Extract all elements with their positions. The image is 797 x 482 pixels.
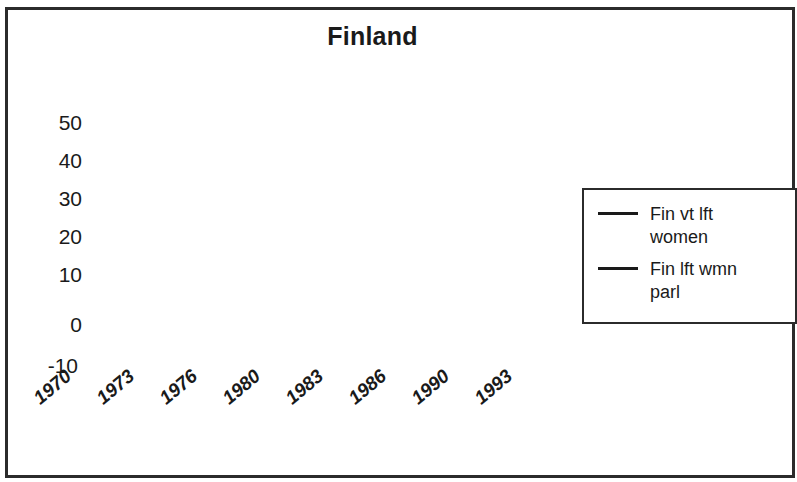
y-tick-label-20: 20 — [30, 226, 82, 247]
y-tick-label-0: 0 — [30, 314, 82, 335]
legend-label-0: Fin vt lft women — [650, 203, 758, 249]
y-tick-label-40: 40 — [30, 150, 82, 171]
legend-line-swatch-icon — [598, 267, 638, 270]
legend-line-swatch-icon — [598, 212, 638, 215]
chart-legend: Fin vt lft women Fin lft wmn parl — [582, 188, 797, 324]
legend-item-1: Fin lft wmn parl — [598, 258, 795, 304]
legend-label-1: Fin lft wmn parl — [650, 258, 758, 304]
y-tick-label-50: 50 — [30, 112, 82, 133]
chart-title: Finland — [0, 22, 745, 51]
y-tick-label-30: 30 — [30, 188, 82, 209]
legend-item-0: Fin vt lft women — [598, 203, 795, 249]
y-tick-label-10: 10 — [30, 264, 82, 285]
